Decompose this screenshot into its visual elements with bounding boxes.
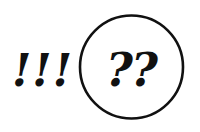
exclamation-marks: !!! — [12, 45, 73, 96]
question-marks: ?? — [106, 43, 159, 97]
exclaim-question-illustration: !!! ?? — [0, 0, 200, 132]
